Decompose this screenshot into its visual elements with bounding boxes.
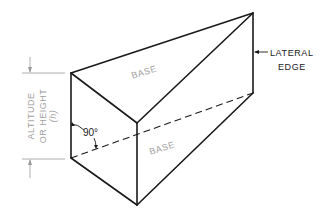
base-label-top: BASE	[130, 64, 158, 81]
altitude-arrow-bottom-icon	[28, 159, 32, 165]
base-label-bottom: BASE	[148, 140, 176, 157]
angle-label: 90°	[83, 127, 98, 138]
top-back-edge	[71, 13, 253, 73]
bottom-front-edge	[71, 158, 137, 205]
altitude-label-group-2: OR HEIGHT	[38, 89, 48, 144]
altitude-symbol: (h)	[48, 110, 58, 123]
top-front-edge	[71, 73, 137, 123]
lateral-edge-label-line1: LATERAL	[270, 48, 314, 58]
altitude-label-line2: OR HEIGHT	[38, 89, 48, 144]
altitude-arrow-top-icon	[28, 67, 32, 73]
lateral-edge-label-line2: EDGE	[278, 62, 306, 72]
altitude-label-line1: ALTITUDE	[26, 93, 36, 140]
prism-diagram: ALTITUDE OR HEIGHT (h) BASE BASE LATERAL…	[0, 0, 335, 218]
lateral-edge-arrow-icon	[254, 50, 259, 54]
altitude-label-group-3: (h)	[48, 110, 58, 123]
altitude-label-group: ALTITUDE	[26, 93, 36, 140]
